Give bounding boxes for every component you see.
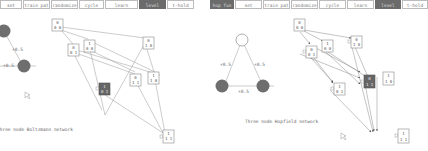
- state-box[interactable]: 0 1 1: [130, 74, 141, 86]
- svg-text:0 0: 0 0: [324, 46, 332, 51]
- left-node-right[interactable]: [18, 60, 31, 73]
- left-caption: Three node Boltzmann network: [0, 127, 73, 132]
- mouse-cursor-icon: [25, 92, 30, 99]
- svg-text:0 0: 0 0: [86, 46, 94, 51]
- state-box[interactable]: 0 0 0: [52, 19, 63, 31]
- svg-text:0 1: 0 1: [308, 52, 316, 57]
- svg-text:0 0: 0 0: [296, 25, 304, 30]
- svg-text:1 0: 1 0: [145, 43, 153, 48]
- right-node-right[interactable]: [257, 80, 270, 93]
- svg-text:0 1: 0 1: [101, 89, 109, 94]
- left-state-boxes: 0 0 0 0 0 1 1 0 0 0 1 0 1 0 1: [52, 19, 174, 143]
- state-box-active[interactable]: 0 1 1: [361, 75, 375, 88]
- left-node-network: +0.5 +0.5: [0, 25, 36, 100]
- svg-text:1 1: 1 1: [132, 80, 140, 85]
- left-node-top[interactable]: [0, 25, 11, 38]
- state-box[interactable]: 0 0 1: [68, 44, 79, 56]
- svg-text:0 1: 0 1: [336, 89, 344, 94]
- left-weight-label: +0.5: [3, 63, 14, 68]
- svg-text:1 0: 1 0: [353, 42, 361, 47]
- state-box[interactable]: 1 1 1: [395, 129, 409, 143]
- state-box[interactable]: 1 1 0: [383, 72, 394, 85]
- svg-text:1 0: 1 0: [150, 78, 158, 83]
- left-weight-label: +0.5: [12, 47, 23, 52]
- svg-text:1 1: 1 1: [165, 136, 173, 141]
- state-box[interactable]: 1 1 0: [148, 72, 159, 84]
- right-weight-label: +0.5: [238, 89, 249, 94]
- right-node-left[interactable]: [216, 80, 229, 93]
- state-box[interactable]: 0 1 0: [143, 37, 154, 49]
- mouse-cursor-icon: [341, 133, 346, 140]
- svg-text:1 1: 1 1: [366, 82, 374, 87]
- state-box[interactable]: 1 1 1: [160, 130, 174, 143]
- right-caption: Three node Hopfield network: [245, 119, 318, 124]
- right-weight-label: +0.5: [220, 62, 231, 67]
- state-box[interactable]: 0 0 0: [294, 19, 305, 31]
- svg-text:0 0: 0 0: [54, 25, 62, 30]
- right-node-top[interactable]: [236, 34, 248, 46]
- svg-text:1 0: 1 0: [385, 79, 393, 84]
- svg-text:1 1: 1 1: [400, 137, 408, 142]
- state-box[interactable]: 1 0 0: [322, 40, 333, 52]
- state-box[interactable]: 1 0 0: [84, 40, 95, 52]
- right-state-boxes: 0 0 0 0 0 1 1 0 0 0 1 0 0 1 1 1: [294, 19, 409, 143]
- svg-text:0 1: 0 1: [70, 50, 78, 55]
- right-weight-label: +0.5: [254, 62, 265, 67]
